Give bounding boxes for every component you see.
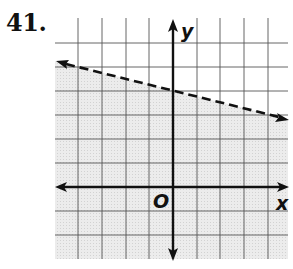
origin-label: O (153, 190, 169, 212)
x-axis-label: x (275, 192, 289, 214)
coordinate-graph: y x O (0, 0, 293, 269)
y-axis-label: y (181, 20, 195, 42)
